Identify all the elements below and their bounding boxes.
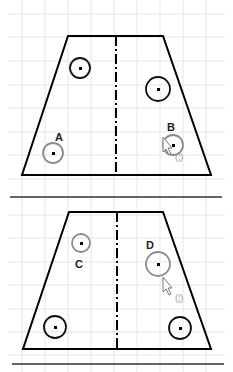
label-c: C [75, 258, 83, 270]
hole-lower-right[interactable] [169, 317, 191, 339]
mouse-cursor-icon [163, 137, 172, 155]
hole-c[interactable] [72, 234, 90, 252]
label-b: B [167, 121, 175, 133]
diagram-canvas: A B (¦) C D (¦) [0, 0, 233, 372]
hole-lower-left[interactable] [44, 316, 66, 338]
snap-indicator-icon: (¦) [175, 293, 183, 303]
label-a: A [55, 131, 63, 143]
hole-d[interactable] [146, 252, 170, 276]
mouse-cursor-icon [163, 277, 172, 295]
hole-upper-right[interactable] [146, 77, 170, 101]
label-d: D [146, 239, 154, 251]
snap-indicator-icon: (¦) [175, 152, 183, 162]
hole-a[interactable] [43, 143, 63, 163]
